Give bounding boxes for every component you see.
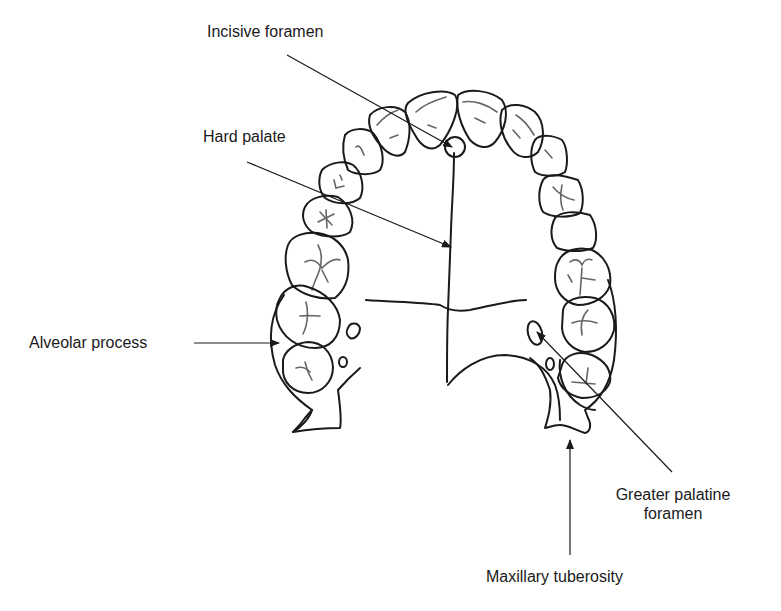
leader-hard-palate [247,162,451,247]
tooth-second-premolar-right [551,212,596,251]
greater-palatine-foramen-left [347,324,360,339]
tooth-central-incisor-left [405,92,457,149]
tooth-first-premolar-left [319,162,362,203]
incisive-foramen [445,137,465,157]
label-maxillary-tuberosity: Maxillary tuberosity [486,567,623,586]
greater-palatine-foramen-right [525,320,545,347]
label-incisive-foramen: Incisive foramen [207,22,324,41]
tooth-second-premolar-left [303,196,352,237]
median-palatine-suture [447,153,454,382]
transverse-palatine-suture [366,300,526,311]
label-greater-palatine-line1: Greater palatine [598,485,748,504]
tooth-first-molar-left [286,233,349,299]
tooth-second-molar-right [562,297,614,352]
label-greater-palatine-foramen: Greater palatine foramen [598,485,748,523]
tooth-central-incisor-right [457,91,506,147]
label-alveolar-process: Alveolar process [29,333,147,352]
maxillary-arch-diagram: Incisive foramen Hard palate Alveolar pr… [0,0,781,611]
teeth-right [457,91,614,398]
lesser-palatine-foramen-left [339,357,347,367]
leader-greater-palatine-foramen [537,332,672,472]
lesser-palatine-foramen-right [546,358,554,370]
posterior-border-palate [448,355,560,420]
label-greater-palatine-line2: foramen [598,504,748,523]
tooth-third-molar-left [283,342,333,393]
label-hard-palate: Hard palate [203,127,286,146]
teeth-left [276,92,457,393]
leader-incisive-foramen [287,55,452,147]
